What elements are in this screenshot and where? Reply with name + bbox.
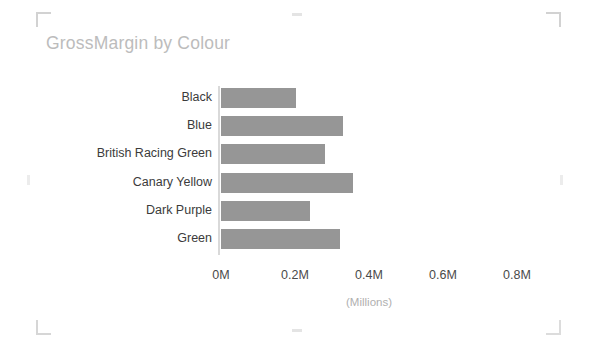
category-label: Canary Yellow <box>133 175 212 190</box>
x-axis-tick-label: 0.2M <box>281 268 309 282</box>
chart-visual-container[interactable]: GrossMargin by Colour BlackBlueBritish R… <box>0 0 592 346</box>
x-axis-tick-label: 0.4M <box>355 268 383 282</box>
plot-area: BlackBlueBritish Racing GreenCanary Yell… <box>0 0 592 346</box>
bar[interactable] <box>221 116 343 136</box>
category-label: British Racing Green <box>97 146 212 161</box>
x-axis-tick-label: 0.8M <box>503 268 531 282</box>
bar[interactable] <box>221 201 310 221</box>
x-axis-tick-label: 0M <box>212 268 229 282</box>
axis-units-label: (Millions) <box>346 296 392 308</box>
bar[interactable] <box>221 144 325 164</box>
bar[interactable] <box>221 173 353 193</box>
bar[interactable] <box>221 88 296 108</box>
bar[interactable] <box>221 229 340 249</box>
y-axis-line <box>218 86 220 255</box>
x-axis-tick-label: 0.6M <box>429 268 457 282</box>
category-label: Black <box>181 90 212 105</box>
category-label: Green <box>177 231 212 246</box>
category-label: Blue <box>187 118 212 133</box>
category-label: Dark Purple <box>146 203 212 218</box>
